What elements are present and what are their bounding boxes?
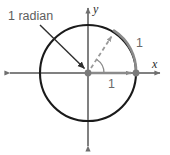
label-one-radian: 1 radian: [8, 10, 53, 23]
label-radius-length-one: 1: [108, 78, 115, 91]
highlighted-arc: [114, 31, 136, 73]
angle-marker-arc: [97, 60, 104, 74]
center-point-dot: [85, 70, 92, 77]
figure-canvas: [0, 0, 170, 155]
terminal-point-dot: [133, 70, 140, 77]
label-arc-length-one: 1: [136, 37, 143, 50]
label-x-axis: x: [152, 58, 157, 70]
unit-circle-radian-figure: 1 radian y x 1 1: [0, 0, 170, 155]
label-y-axis: y: [93, 3, 98, 15]
